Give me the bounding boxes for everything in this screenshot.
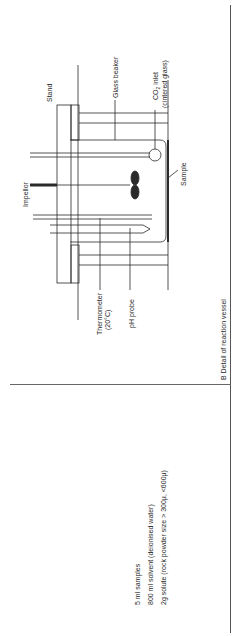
- reaction-vessel-diagram: Stand Glass beaker CO2 inlet (cintered g…: [0, 0, 245, 636]
- figure-page: Stand Glass beaker CO2 inlet (cintered g…: [0, 0, 245, 636]
- impellor-blade-bottom: [131, 185, 139, 199]
- impellor-blade-top: [131, 171, 139, 185]
- condition-line-2: 800 ml solvent (deionised water): [147, 504, 155, 605]
- thermometer-temp-label: (20°C): [104, 310, 112, 330]
- glass-beaker-label: Glass beaker: [112, 56, 119, 98]
- co2-inlet-label: CO2 inlet: [152, 72, 161, 100]
- impellor-label: Impellor: [22, 181, 30, 207]
- panel-b-caption: B Detail of reaction vessel: [220, 299, 227, 380]
- stand-plate: [57, 105, 71, 283]
- condition-line-3: 2g solute (rock powder size > 300μ, <600…: [160, 470, 168, 605]
- condition-line-1: 5 ml samples: [134, 563, 142, 605]
- sample-label: Sample: [180, 162, 188, 186]
- thermometer-label: Thermometer: [96, 292, 103, 335]
- sample-leader: [168, 170, 178, 178]
- glass-beaker-outline: [70, 140, 166, 242]
- ph-probe-label: pH probe: [128, 299, 136, 328]
- co2-inlet-bulb: [149, 149, 161, 161]
- co2-inlet-label-2: (cintered glass): [161, 60, 169, 108]
- stand-label: Stand: [46, 84, 53, 102]
